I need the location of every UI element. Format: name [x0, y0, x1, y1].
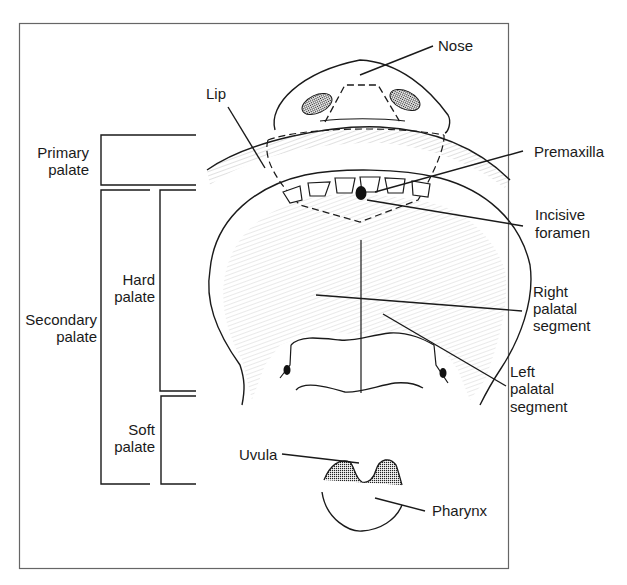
label-right-palatal-line1: Right: [533, 283, 568, 300]
label-right-palatal-line3: segment: [533, 317, 591, 334]
label-soft-palate-line2: palate: [114, 438, 155, 455]
label-right-palatal-line2: palatal: [533, 300, 577, 317]
uvula-drawing: [282, 454, 402, 485]
label-lip: Lip: [206, 85, 226, 102]
incisive-foramen-dot: [356, 186, 367, 200]
label-left-palatal-line3: segment: [510, 398, 568, 415]
palate-drawing: [209, 170, 531, 405]
label-secondary-palate-line2: palate: [56, 328, 97, 345]
label-incisive-foramen-line1: Incisive: [535, 206, 585, 223]
figure-border: [19, 23, 508, 97]
label-primary-palate-line2: palate: [48, 161, 89, 178]
label-hard-palate-line1: Hard: [122, 271, 155, 288]
outer-border: [20, 24, 509, 98]
frame-border: [20, 24, 509, 98]
label-primary-palate-line1: Primary: [37, 144, 89, 161]
label-soft-palate-line1: Soft: [128, 421, 155, 438]
pharynx-drawing: [322, 492, 425, 531]
soft-palate-bracket: [161, 396, 196, 484]
hard-palate-bracket: [160, 190, 196, 391]
label-premaxilla: Premaxilla: [534, 143, 604, 160]
label-nose: Nose: [438, 37, 473, 54]
label-left-palatal-line2: palatal: [510, 380, 554, 397]
nose-drawing: [274, 46, 450, 133]
label-left-palatal-line1: Left: [510, 363, 535, 380]
label-pharynx: Pharynx: [432, 502, 487, 519]
label-uvula: Uvula: [239, 446, 277, 463]
label-incisive-foramen-line2: foramen: [535, 224, 590, 241]
primary-palate-bracket: [101, 135, 196, 185]
label-hard-palate-line2: palate: [114, 288, 155, 305]
label-secondary-palate-line1: Secondary: [25, 311, 97, 328]
